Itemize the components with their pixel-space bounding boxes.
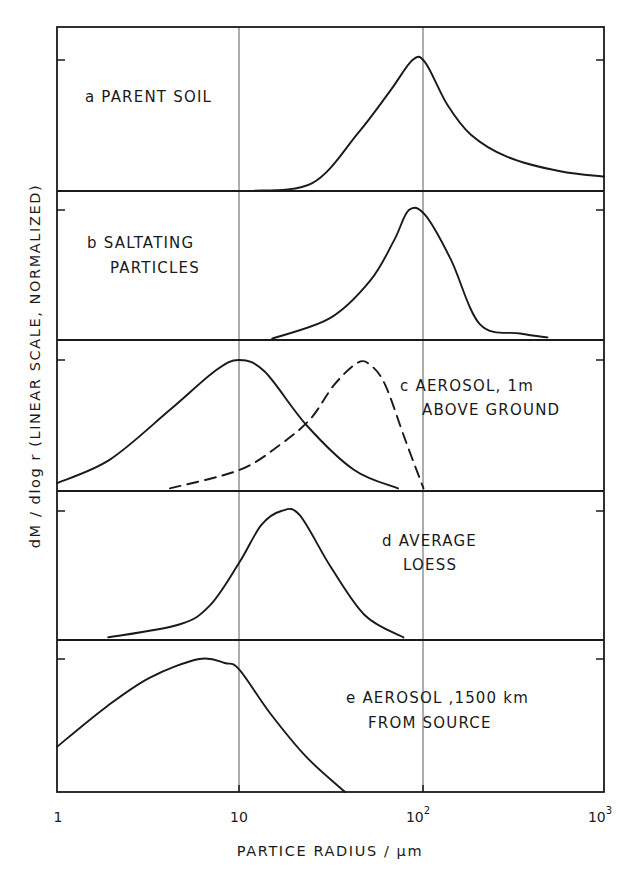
x-tick-label-1000: 103: [588, 805, 612, 825]
y-ticks: [57, 60, 604, 659]
curve-panel-c-solid: [57, 360, 398, 488]
x-tick-label-100-exp: 2: [424, 805, 430, 816]
x-tick-label-10: 10: [230, 809, 248, 825]
curve-panel-b-solid: [272, 208, 547, 339]
panel-d-label-line1: d AVERAGE: [382, 532, 477, 550]
x-tick-label-1: 1: [54, 809, 63, 825]
panel-d-label-line2: LOESS: [403, 556, 457, 574]
curve-panel-d-solid: [108, 509, 403, 638]
x-tick-label-1000-base: 10: [588, 809, 606, 825]
curve-panel-e-solid: [57, 658, 345, 792]
panel-b-label-line1: b SALTATING: [87, 234, 194, 252]
panel-e-label-line1: e AEROSOL ,1500 km: [346, 689, 529, 707]
curves: [57, 57, 604, 792]
panel-c-label-line2: ABOVE GROUND: [422, 401, 560, 419]
curve-panel-a-solid: [250, 57, 604, 191]
panel-b-label-line2: PARTICLES: [110, 259, 200, 277]
figure-particle-size-distributions: a PARENT SOIL b SALTATING PARTICLES c AE…: [0, 0, 642, 878]
x-tick-label-100: 102: [406, 805, 430, 825]
panel-c-label-line1: c AEROSOL, 1m: [400, 377, 534, 395]
curve-panel-c-dashed: [170, 361, 424, 488]
x-axis-title: PARTICE RADIUS / µm: [237, 843, 423, 859]
panel-a-label: a PARENT SOIL: [85, 88, 212, 106]
y-axis-title: dM / dlog r (LINEAR SCALE, NORMALIZED): [27, 184, 43, 548]
panel-e-label-line2: FROM SOURCE: [368, 714, 492, 732]
x-tick-label-100-base: 10: [406, 809, 424, 825]
x-tick-label-1000-exp: 3: [606, 805, 612, 816]
